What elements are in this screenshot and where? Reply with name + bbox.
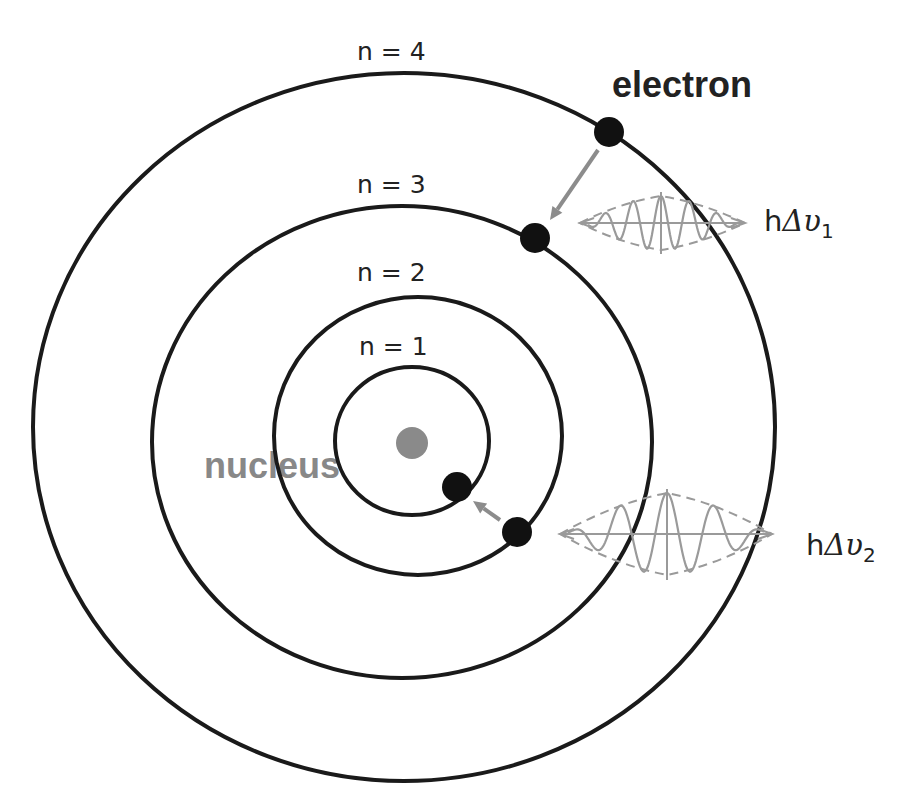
nu-symbol: υ: [845, 528, 863, 562]
delta-symbol: Δ: [781, 204, 803, 238]
electron-icon-n4: [594, 117, 624, 147]
transition-arrow-1: [557, 150, 598, 209]
orbit-label-n3: n = 3: [357, 170, 426, 199]
subscript: 1: [821, 219, 834, 243]
orbit-label-n1: n = 1: [359, 332, 428, 361]
photon-energy-label-2: hΔυ2: [806, 528, 876, 567]
photon-waves: [560, 192, 772, 580]
electrons-group: [442, 117, 624, 547]
electron-icon-n3: [520, 223, 550, 253]
nucleus-icon: [396, 427, 428, 459]
photon-wave-packet-2: [560, 489, 772, 580]
electron-icon-n1: [442, 472, 472, 502]
orbit-label-n4: n = 4: [357, 37, 426, 66]
orbit-labels: n = 1 n = 2 n = 3 n = 4: [357, 37, 428, 361]
planck-h: h: [764, 204, 782, 238]
nucleus-label: nucleus: [204, 445, 340, 486]
photon-energy-label-1: hΔυ1: [764, 204, 834, 243]
electron-label: electron: [612, 64, 752, 105]
subscript: 2: [863, 543, 876, 567]
delta-symbol: Δ: [823, 528, 845, 562]
orbit-label-n2: n = 2: [357, 258, 426, 287]
transition-arrow-2: [484, 508, 500, 520]
nu-symbol: υ: [803, 204, 821, 238]
bohr-atom-diagram: nucleus n = 1 n = 2 n = 3 n = 4 electron…: [0, 0, 923, 809]
transition-arrows: [473, 150, 598, 520]
planck-h: h: [806, 528, 824, 562]
electron-icon-n2: [502, 517, 532, 547]
